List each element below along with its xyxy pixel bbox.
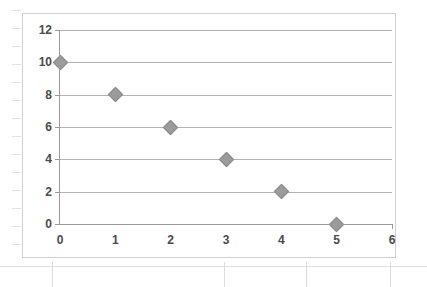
- x-axis-label-3: 3: [213, 234, 239, 246]
- y-axis-label-8: 8: [22, 89, 52, 101]
- gridline-y-12: [60, 30, 392, 31]
- gridline-y-10: [60, 62, 392, 63]
- y-axis-label-2: 2: [22, 186, 52, 198]
- y-axis-label-0: 0: [22, 218, 52, 230]
- y-tick-0: [55, 224, 60, 225]
- y-tick-12: [55, 30, 60, 31]
- y-axis-label-12: 12: [22, 24, 52, 36]
- x-axis-label-1: 1: [102, 234, 128, 246]
- data-point-marker[interactable]: [274, 184, 290, 200]
- x-axis-label-2: 2: [158, 234, 184, 246]
- x-axis-label-6: 6: [379, 234, 405, 246]
- spreadsheet-column-tick: [52, 262, 53, 287]
- y-tick-4: [55, 159, 60, 160]
- y-axis-label-10: 10: [22, 56, 52, 68]
- x-axis-label-0: 0: [47, 234, 73, 246]
- plot-area: [60, 30, 392, 224]
- spreadsheet-column-tick: [306, 262, 307, 287]
- y-axis-label-6: 6: [22, 121, 52, 133]
- spreadsheet-row-divider: [0, 266, 427, 267]
- x-axis-line: [60, 224, 393, 225]
- data-point-marker[interactable]: [108, 87, 124, 103]
- x-axis-label-5: 5: [324, 234, 350, 246]
- y-tick-2: [55, 192, 60, 193]
- y-axis-label-4: 4: [22, 153, 52, 165]
- y-tick-10: [55, 62, 60, 63]
- gridline-y-2: [60, 192, 392, 193]
- x-axis-end-tick: [392, 224, 393, 229]
- spreadsheet-column-tick: [224, 262, 225, 287]
- x-axis-label-4: 4: [268, 234, 294, 246]
- scatter-chart: 024681012 0123456: [0, 0, 427, 287]
- data-point-marker[interactable]: [218, 152, 234, 168]
- gridline-y-6: [60, 127, 392, 128]
- y-tick-8: [55, 95, 60, 96]
- data-point-marker[interactable]: [163, 119, 179, 135]
- y-tick-6: [55, 127, 60, 128]
- spreadsheet-column-ticks: [0, 258, 427, 287]
- spreadsheet-column-tick: [390, 262, 391, 287]
